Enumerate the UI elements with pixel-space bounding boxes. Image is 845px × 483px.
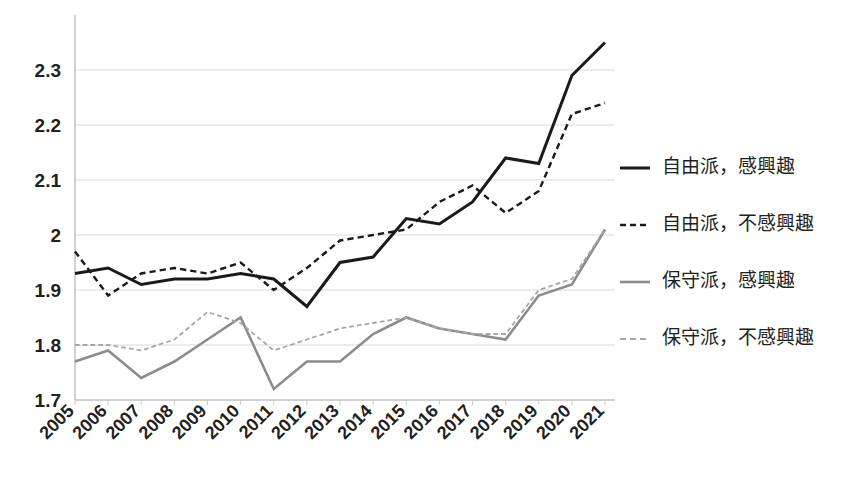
legend-label: 保守派，不感興趣	[662, 327, 814, 348]
y-axis-tick-label: 1.9	[35, 280, 61, 301]
y-axis-tick-label: 2.3	[35, 60, 61, 81]
y-axis-tick-label: 2.1	[35, 170, 62, 191]
legend-label: 自由派，不感興趣	[662, 213, 814, 234]
line-chart: 1.71.81.922.12.22.3 20052006200720082009…	[0, 0, 845, 483]
y-axis-tick-label: 2	[50, 225, 61, 246]
y-axis-tick-label: 1.8	[35, 335, 61, 356]
legend-label: 自由派，感興趣	[662, 156, 795, 177]
y-axis-tick-label: 2.2	[35, 115, 61, 136]
legend-label: 保守派，感興趣	[662, 270, 795, 291]
